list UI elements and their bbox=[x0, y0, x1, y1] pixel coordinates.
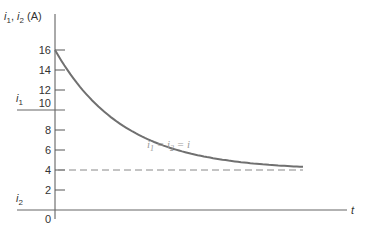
curve-annotation: i1 = i2 = i bbox=[147, 138, 190, 153]
y-tick-label-14: 14 bbox=[39, 64, 51, 76]
y-tick-label-2: 2 bbox=[45, 184, 51, 196]
y-tick-label-6: 6 bbox=[45, 144, 51, 156]
y-tick-label-8: 8 bbox=[45, 124, 51, 136]
y-tick-label-0: 0 bbox=[45, 213, 51, 225]
y-axis-title: i1, i2 (A) bbox=[4, 10, 42, 25]
i2-label: i2 bbox=[16, 192, 23, 207]
y-tick-label-10: 10 bbox=[39, 97, 51, 109]
y-tick-label-12: 12 bbox=[39, 84, 51, 96]
y-ticks: 0246810121416 bbox=[39, 44, 65, 225]
i1-label: i1 bbox=[16, 92, 23, 107]
x-axis-title: t bbox=[351, 204, 355, 216]
y-tick-label-16: 16 bbox=[39, 44, 51, 56]
y-tick-label-4: 4 bbox=[45, 164, 51, 176]
current-decay-chart: i1, i2 (A) 0246810121416 i1 i2 t i1 = i2… bbox=[0, 0, 371, 238]
